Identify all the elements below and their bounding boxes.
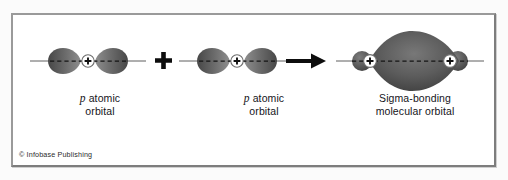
copyright-notice: © Infobase Publishing (19, 150, 92, 160)
nucleus-left (364, 55, 377, 68)
plus-operator-icon (155, 52, 172, 69)
p-atomic-orbital-2 (179, 48, 295, 74)
orbital-diagram-figure: p atomic orbital p atomic orbital Sigma-… (0, 0, 508, 180)
label-line2-1: orbital (85, 105, 114, 117)
label-rest-2: atomic (250, 92, 285, 104)
label-rest-1: atomic (86, 92, 121, 104)
reaction-arrow-icon (286, 54, 326, 69)
p-atomic-orbital-1-label: p atomic orbital (32, 92, 168, 118)
label-line2-3: molecular orbital (376, 105, 455, 117)
label-line2-2: orbital (249, 105, 278, 117)
sigma-molecular-orbital-label: Sigma-bonding molecular orbital (345, 92, 485, 118)
label-rest-3: Sigma-bonding (379, 92, 451, 104)
nucleus-right (444, 55, 457, 68)
sigma-bonding-molecular-orbital (336, 31, 484, 91)
p-atomic-orbital-2-label: p atomic orbital (196, 92, 332, 118)
p-atomic-orbital-1 (30, 48, 146, 74)
